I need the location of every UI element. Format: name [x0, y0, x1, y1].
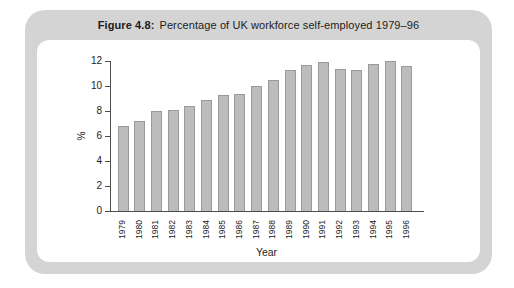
bar-1986: [234, 94, 245, 212]
x-tick-label-1987: 1987: [251, 215, 261, 239]
bar-1982: [168, 110, 179, 211]
y-tick-mark: [105, 86, 111, 87]
x-tick-label-1996: 1996: [401, 215, 411, 239]
x-tick-label-1984: 1984: [201, 215, 211, 239]
figure-number: Figure 4.8:: [98, 19, 155, 31]
figure-card: Figure 4.8: Percentage of UK workforce s…: [25, 10, 492, 274]
bar-1990: [301, 65, 312, 211]
bar-1994: [368, 64, 379, 212]
bar-chart: % 024681012 1979198019811982198319841985…: [37, 40, 480, 262]
x-tick-label-1981: 1981: [150, 215, 160, 239]
x-tick-label-1988: 1988: [267, 215, 277, 239]
y-tick-label: 6: [96, 131, 102, 141]
y-tick-6: 6: [96, 131, 111, 141]
bar-1979: [118, 126, 129, 211]
x-tick-label-1982: 1982: [167, 215, 177, 239]
bar-1996: [401, 66, 412, 211]
x-tick-label-1979: 1979: [117, 215, 127, 239]
x-tick-label-1995: 1995: [384, 215, 394, 239]
y-tick-8: 8: [96, 106, 111, 116]
x-tick-label-1980: 1980: [134, 215, 144, 239]
bar-1987: [251, 86, 262, 211]
plot-area: 024681012: [110, 61, 424, 212]
x-axis-label: Year: [110, 246, 423, 258]
y-tick-12: 12: [91, 56, 111, 66]
x-tick-label-1985: 1985: [217, 215, 227, 239]
y-tick-mark: [105, 186, 111, 187]
bar-1992: [335, 69, 346, 212]
y-tick-4: 4: [96, 156, 111, 166]
y-tick-mark: [105, 161, 111, 162]
bar-1995: [385, 61, 396, 211]
y-tick-mark: [105, 136, 111, 137]
y-tick-mark: [105, 61, 111, 62]
x-tick-label-1992: 1992: [334, 215, 344, 239]
figure-caption: Percentage of UK workforce self-employed…: [159, 19, 419, 31]
y-axis-label: %: [76, 129, 88, 143]
bar-1991: [318, 62, 329, 211]
y-tick-label: 0: [96, 206, 102, 216]
bar-1993: [351, 70, 362, 211]
y-tick-10: 10: [91, 81, 111, 91]
y-tick-label: 12: [91, 56, 102, 66]
x-tick-label-1989: 1989: [284, 215, 294, 239]
y-tick-mark: [105, 211, 111, 212]
x-tick-label-1993: 1993: [351, 215, 361, 239]
bar-1981: [151, 111, 162, 211]
y-tick-label: 2: [96, 181, 102, 191]
x-tick-label-1994: 1994: [368, 215, 378, 239]
y-tick-label: 4: [96, 156, 102, 166]
y-tick-0: 0: [96, 206, 111, 216]
x-tick-label-1986: 1986: [234, 215, 244, 239]
chart-panel: % 024681012 1979198019811982198319841985…: [37, 40, 480, 262]
x-tick-label-1983: 1983: [184, 215, 194, 239]
x-tick-label-1991: 1991: [317, 215, 327, 239]
bar-1980: [134, 121, 145, 211]
bar-1984: [201, 100, 212, 211]
bar-1985: [218, 95, 229, 211]
x-tick-label-1990: 1990: [301, 215, 311, 239]
y-tick-label: 8: [96, 106, 102, 116]
y-tick-2: 2: [96, 181, 111, 191]
bar-1988: [268, 80, 279, 211]
y-tick-mark: [105, 111, 111, 112]
bar-1989: [285, 70, 296, 211]
figure-title: Figure 4.8: Percentage of UK workforce s…: [25, 10, 492, 40]
y-tick-label: 10: [91, 81, 102, 91]
bar-1983: [184, 106, 195, 211]
